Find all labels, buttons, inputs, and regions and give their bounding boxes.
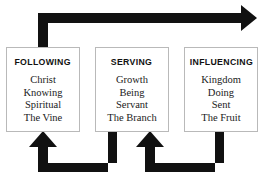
stage-items-following: Christ Knowing Spiritual The Vine [23, 74, 62, 124]
list-item: Knowing [23, 87, 62, 100]
list-item: Spiritual [23, 99, 62, 112]
list-item: Doing [201, 87, 241, 100]
stage-box-serving[interactable]: SERVING Growth Being Servant The Branch [95, 47, 169, 132]
list-item: Being [107, 87, 156, 100]
stage-title-following: FOLLOWING [15, 57, 71, 67]
list-item: Christ [23, 74, 62, 87]
list-item: Kingdom [201, 74, 241, 87]
list-item: Servant [107, 99, 156, 112]
list-item: The Vine [23, 112, 62, 125]
top-arrow [38, 5, 257, 47]
diagram-canvas: FOLLOWING Christ Knowing Spiritual The V… [0, 0, 265, 177]
stage-box-following[interactable]: FOLLOWING Christ Knowing Spiritual The V… [6, 47, 80, 132]
stage-box-influencing[interactable]: INFLUENCING Kingdom Doing Sent The Fruit [184, 47, 258, 132]
list-item: Sent [201, 99, 241, 112]
list-item: The Branch [107, 112, 156, 125]
list-item: The Fruit [201, 112, 241, 125]
bottom-right-arrow [136, 131, 224, 172]
stage-title-influencing: INFLUENCING [189, 57, 252, 67]
stage-items-serving: Growth Being Servant The Branch [107, 74, 156, 124]
list-item: Growth [107, 74, 156, 87]
stage-title-serving: SERVING [111, 57, 152, 67]
stage-items-influencing: Kingdom Doing Sent The Fruit [201, 74, 241, 124]
bottom-left-arrow [29, 131, 117, 172]
